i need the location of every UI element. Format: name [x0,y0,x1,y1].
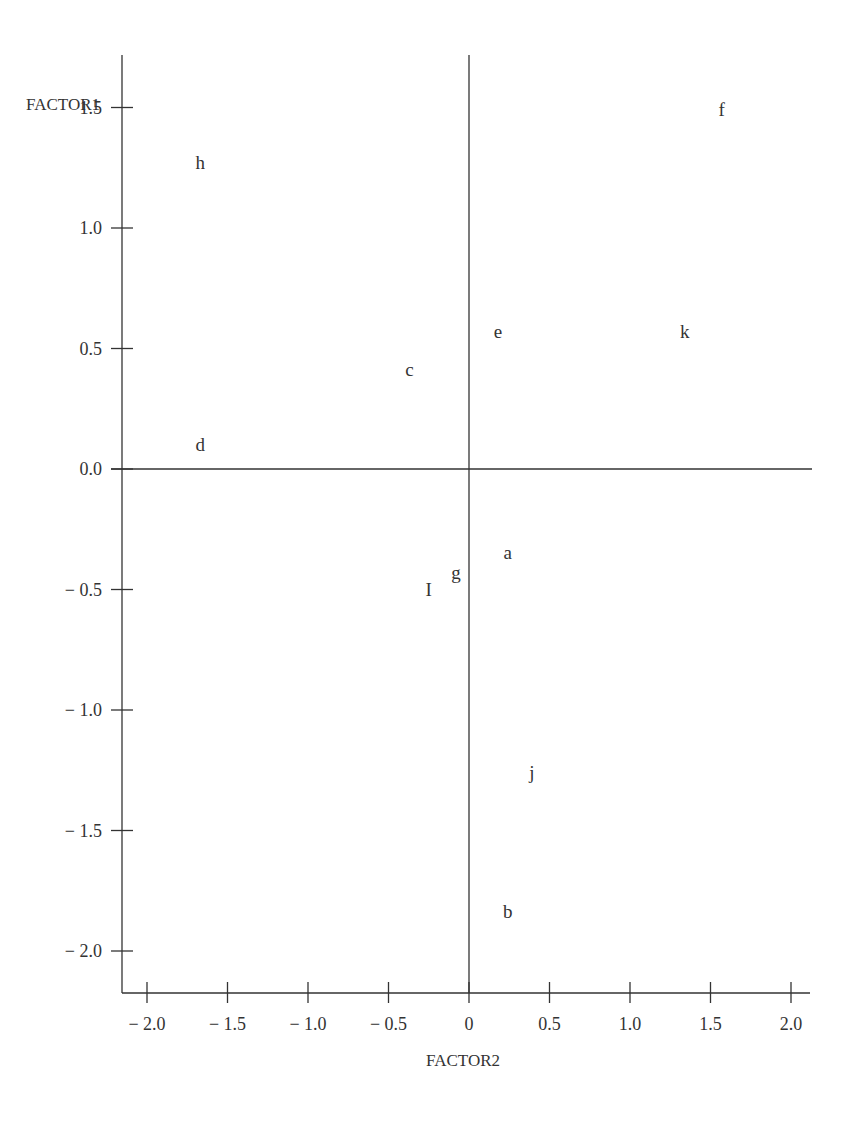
x-tick-label: 1.5 [699,1014,722,1034]
point-label-f: f [719,99,726,120]
y-axis-label: FACTOR1 [26,95,100,114]
point-label-b: b [503,901,513,922]
y-axis-ticks: 1.51.00.50.0− 0.5− 1.0− 1.5− 2.0 [65,98,133,962]
x-tick-label: − 2.0 [128,1014,165,1034]
point-label-c: c [405,359,413,380]
y-tick-label: − 1.5 [65,821,102,841]
x-tick-label: − 0.5 [370,1014,407,1034]
data-points: fhekcdagIjb [195,99,725,923]
factor-scatter-chart: 1.51.00.50.0− 0.5− 1.0− 1.5− 2.0 − 2.0− … [0,0,854,1128]
x-axis-label: FACTOR2 [426,1051,500,1070]
point-label-a: a [503,542,512,563]
x-tick-label: − 1.0 [289,1014,326,1034]
x-tick-label: 2.0 [780,1014,803,1034]
x-tick-label: 1.0 [619,1014,642,1034]
point-label-h: h [195,152,205,173]
y-tick-label: 0.0 [80,459,103,479]
y-tick-label: − 1.0 [65,700,102,720]
point-label-d: d [195,434,205,455]
x-tick-label: 0 [465,1014,474,1034]
point-label-j: j [528,762,534,783]
point-label-k: k [680,321,690,342]
point-label-e: e [494,321,502,342]
y-tick-label: 1.0 [80,218,103,238]
point-label-g: g [451,562,461,583]
x-tick-label: 0.5 [538,1014,561,1034]
x-tick-label: − 1.5 [209,1014,246,1034]
y-tick-label: − 2.0 [65,941,102,961]
x-axis-ticks: − 2.0− 1.5− 1.0− 0.500.51.01.52.0 [128,982,802,1034]
y-tick-label: 0.5 [80,339,103,359]
y-tick-label: − 0.5 [65,580,102,600]
point-label-I: I [426,579,432,600]
